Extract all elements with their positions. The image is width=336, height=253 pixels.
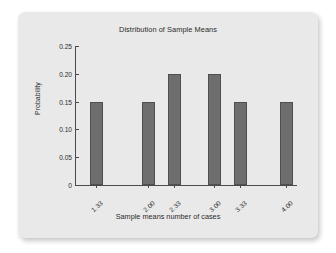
plot-area: 00.050.100.150.200.25 1.332.002.333.003.… (75, 46, 297, 185)
bar (168, 74, 181, 185)
chart-card: Distribution of Sample Means Probability… (18, 12, 318, 238)
y-tick-label: 0 (68, 182, 72, 189)
y-tick-mark (76, 157, 79, 158)
bar (280, 102, 293, 185)
x-tick-mark (214, 185, 215, 188)
y-axis-line (75, 46, 76, 185)
bar (90, 102, 103, 185)
x-tick-mark (286, 185, 287, 188)
y-axis-title: Probability (34, 82, 41, 115)
y-tick-label: 0.10 (59, 126, 72, 133)
bar (142, 102, 155, 185)
bar (208, 74, 221, 185)
bar (234, 102, 247, 185)
y-tick-label: 0.20 (59, 70, 72, 77)
y-tick-label: 0.15 (59, 98, 72, 105)
x-axis-line (75, 185, 297, 186)
y-tick-mark (76, 74, 79, 75)
y-tick-label: 0.05 (59, 154, 72, 161)
screenshot-root: Distribution of Sample Means Probability… (0, 0, 336, 253)
x-axis-title: Sample means number of cases (18, 212, 318, 221)
x-tick-mark (148, 185, 149, 188)
y-tick-mark (76, 102, 79, 103)
x-tick-mark (96, 185, 97, 188)
y-tick-label: 0.25 (59, 43, 72, 50)
x-tick-mark (240, 185, 241, 188)
y-tick-mark (76, 129, 79, 130)
y-tick-mark (76, 185, 79, 186)
y-tick-mark (76, 46, 79, 47)
chart-title: Distribution of Sample Means (18, 25, 318, 34)
x-tick-mark (174, 185, 175, 188)
